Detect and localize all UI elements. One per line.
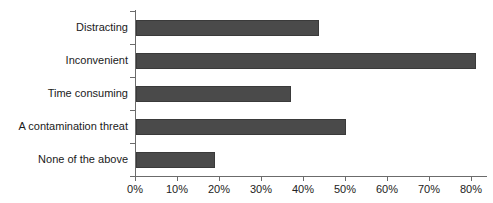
y-tick-mark: [130, 110, 135, 111]
x-tick-mark: [135, 176, 136, 181]
x-tick-label: 70%: [409, 183, 449, 196]
bar: [136, 152, 215, 168]
x-tick-label: 60%: [367, 183, 407, 196]
bar-chart: 0%10%20%30%40%50%60%70%80% DistractingIn…: [0, 0, 493, 203]
y-tick-mark: [130, 44, 135, 45]
x-tick-label: 80%: [451, 183, 491, 196]
y-tick-mark: [130, 77, 135, 78]
x-tick-mark: [345, 176, 346, 181]
category-label: A contamination threat: [0, 120, 128, 133]
bar: [136, 53, 476, 69]
x-tick-mark: [261, 176, 262, 181]
bar: [136, 86, 291, 102]
x-tick-label: 0%: [115, 183, 155, 196]
x-tick-mark: [387, 176, 388, 181]
chart-title: [0, 0, 493, 6]
y-tick-mark: [130, 143, 135, 144]
category-label: Time consuming: [0, 87, 128, 100]
category-label: Inconvenient: [0, 54, 128, 67]
x-tick-mark: [429, 176, 430, 181]
bar: [136, 20, 319, 36]
x-tick-mark: [303, 176, 304, 181]
x-tick-mark: [177, 176, 178, 181]
x-axis-line: [135, 176, 487, 177]
x-tick-label: 40%: [283, 183, 323, 196]
x-tick-label: 50%: [325, 183, 365, 196]
y-tick-mark: [130, 11, 135, 12]
category-label: None of the above: [0, 153, 128, 166]
category-label: Distracting: [0, 21, 128, 34]
x-tick-mark: [471, 176, 472, 181]
x-tick-label: 30%: [241, 183, 281, 196]
x-tick-label: 10%: [157, 183, 197, 196]
bar: [136, 119, 346, 135]
x-tick-mark: [219, 176, 220, 181]
x-tick-label: 20%: [199, 183, 239, 196]
